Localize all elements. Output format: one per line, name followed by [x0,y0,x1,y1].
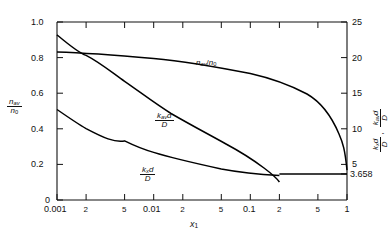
y-right-tick-5: 5 [352,159,357,169]
top-axis-ticks [86,22,318,28]
y-left-tick-0.4: 0.4 [31,124,44,134]
curve-label-k-x-d-over-D: kxd D [140,166,155,184]
y-right-title-comma: , [376,129,385,134]
y-left-tick-0.2: 0.2 [31,159,44,169]
curve-label-k-av-d-over-D: kavd D [155,112,174,130]
y-axis-right-title: kxd D , kavd D [372,109,388,152]
x-tick-2c: 2 [277,205,281,215]
y-right-tick-20: 20 [352,53,362,63]
x-tick-2a: 2 [84,205,88,215]
curve-k-av-d-over-D [57,35,279,182]
y-right-title-kav: kavd D [372,109,388,128]
x-tick-0.001: 0.001 [44,204,67,214]
x-tick-2b: 2 [180,205,184,215]
x-tick-5a: 5 [122,205,126,215]
y-right-tick-10: 10 [352,124,362,134]
y-left-tick-1.0: 1.0 [31,17,44,27]
x-tick-0.01: 0.01 [143,204,161,214]
x-tick-5b: 5 [219,205,223,215]
curve-n-av-over-n0 [57,52,347,170]
y-axis-left-title: nav n0 [7,98,22,116]
y-right-tick-25: 25 [352,17,362,27]
y-left-title-num-sub: av [13,100,19,106]
y-right-tick-3.658: 3.658 [350,169,373,179]
x-axis-title-sub: 1 [195,222,199,229]
y-left-tick-0.8: 0.8 [31,53,44,63]
curve-label-n-av-over-n0: nav/n0 [196,58,216,67]
x-axis-ticks [57,194,347,200]
y-left-title-den-sub: 0 [15,110,18,116]
x-tick-1: 1 [345,204,350,214]
x-tick-0.1: 0.1 [243,204,256,214]
y-left-tick-0.6: 0.6 [31,88,44,98]
y-right-tick-15: 15 [352,88,362,98]
chart-figure: 1.0 0.8 0.6 0.4 0.2 0 nav n0 25 20 15 10… [0,0,388,241]
x-axis-title: x1 [190,219,198,229]
y-right-title-kx: kxd D [372,137,388,152]
x-tick-5c: 5 [315,205,319,215]
